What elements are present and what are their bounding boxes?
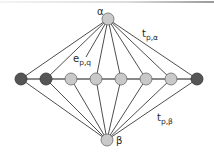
edge-alpha-n7 <box>108 19 171 79</box>
edge-label-t-p-beta: tp,β <box>157 112 173 126</box>
edge-beta-n1 <box>21 79 107 140</box>
graph-diagram: αβep,qtp,αtp,β <box>0 0 214 157</box>
edge-beta-n7 <box>107 79 171 140</box>
edge-alpha-n3 <box>86 19 108 57</box>
edge-label-e-pq: ep,q <box>73 53 91 67</box>
edge-beta-n6 <box>107 79 146 140</box>
edge-alpha-n5 <box>108 19 121 79</box>
node-beta <box>101 134 113 146</box>
node-alpha <box>102 13 114 25</box>
edge-alpha-n8 <box>108 19 197 79</box>
node-label-alpha: α <box>97 6 104 17</box>
edge-beta-n5 <box>107 79 121 140</box>
node-label-beta: β <box>116 135 122 146</box>
edge-alpha-n6 <box>108 19 146 79</box>
node-n1 <box>15 73 27 85</box>
beta-edges <box>21 79 197 140</box>
edge-alpha-n2 <box>46 19 108 79</box>
node-n8 <box>191 73 203 85</box>
edge-alpha-n1 <box>21 19 108 79</box>
edge-label-t-p-alpha: tp,α <box>142 28 158 42</box>
edge-beta-n8 <box>107 79 197 140</box>
node-n2 <box>40 73 52 85</box>
node-n6 <box>140 73 152 85</box>
edge-alpha-n4 <box>96 19 108 79</box>
node-n4 <box>90 73 102 85</box>
node-n7 <box>165 73 177 85</box>
node-n3 <box>65 73 77 85</box>
alpha-edges <box>21 19 197 79</box>
node-n5 <box>115 73 127 85</box>
